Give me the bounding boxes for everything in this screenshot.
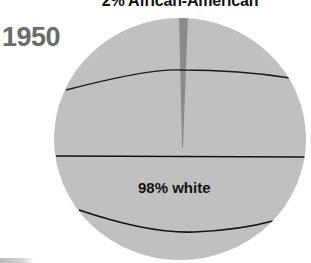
contour-line-middle: [56, 156, 305, 157]
pie-chart: [0, 0, 311, 263]
decorative-shadow: [0, 258, 34, 263]
slice-label-white: 98% white: [138, 179, 211, 196]
